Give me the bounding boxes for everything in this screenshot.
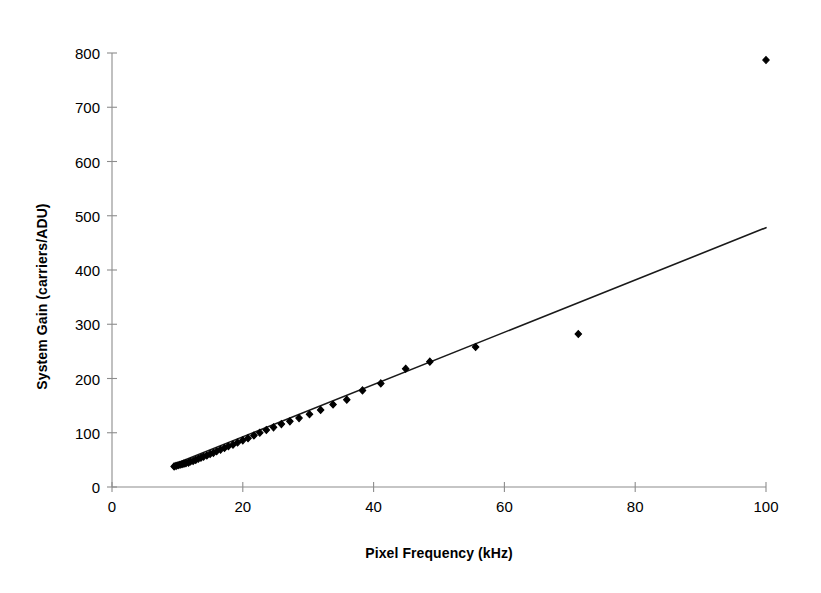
x-axis-tick-labels: 020406080100 [0,498,821,522]
data-point [344,396,350,403]
data-points [171,57,769,470]
chart-figure: System Gain (carriers/ADU) 0100200300400… [0,0,821,593]
x-tick-label: 20 [213,498,273,515]
x-axis-title: Pixel Frequency (kHz) [112,545,766,561]
axis-ticks [107,53,766,492]
x-tick-label: 0 [82,498,142,515]
x-tick-label: 40 [344,498,404,515]
data-point [763,57,769,64]
x-tick-label: 100 [736,498,796,515]
data-point [427,358,433,365]
x-tick-label: 60 [474,498,534,515]
data-point [317,406,323,413]
trend-line [174,228,766,465]
data-point [575,331,581,338]
axis-lines [112,53,766,487]
x-tick-label: 80 [605,498,665,515]
